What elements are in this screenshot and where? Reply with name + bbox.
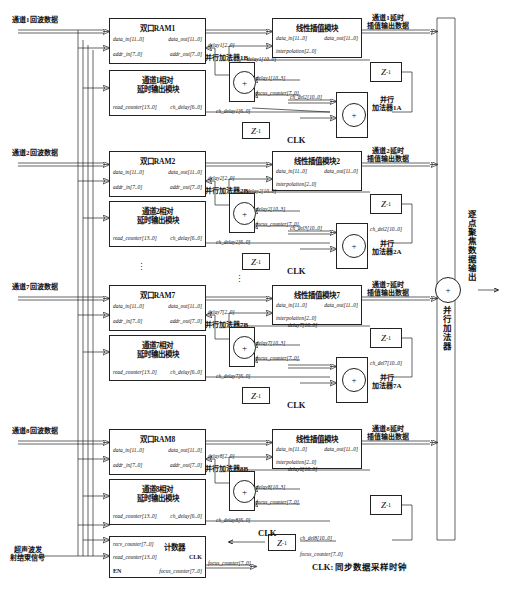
focus-counter-signal-8: focus_counter[7..0] [256, 499, 299, 505]
adder-2b-plus: + [233, 202, 256, 225]
delay-module-2-ch-delay-port: ch_delay[6..0] [170, 235, 202, 241]
linear-interpolation-module-1: 线性插值模块 data_in[11..0] data_out[11..0] in… [272, 18, 362, 58]
ram-7-title: 双口RAM7 [110, 289, 205, 300]
interp-8-data-out-port: data_out[11..0] [324, 446, 358, 452]
parallel-adder-7a-title: 并行 加法器7A [372, 374, 402, 391]
counter-en-port: EN [113, 568, 121, 574]
z-delay-block-1-bottom: Z-1 [242, 122, 270, 139]
channel-1-output-label: 通道1延时 插值输出数据 [367, 14, 409, 31]
channel-7-output-label: 通道7延时 插值输出数据 [367, 281, 409, 298]
z-2-bot-exp: -1 [256, 259, 261, 265]
ram-1-title: 双口RAM1 [110, 22, 205, 33]
delay2-low-signal: delay2[2..0] [208, 175, 235, 181]
final-parallel-adder-plus: + [435, 277, 461, 303]
ram-8-data-out-port: data_out[11..0] [168, 447, 202, 453]
ch-delay7-signal: ch_delay7[6..0] [216, 373, 250, 379]
parallel-adder-1a: + [336, 92, 368, 138]
z-7-bot-exp: -1 [256, 393, 261, 399]
interp-2-title: 线性插值模块2 [273, 155, 361, 166]
ram-8-addr-in-port: addr_in[7..0] [113, 462, 142, 468]
linear-interpolation-module-2: 线性插值模块2 data_in[11..0] data_out[11..0] i… [272, 151, 362, 191]
counter-read-counter-port: read_counter[13..0] [113, 554, 157, 560]
ram-2-addr-out-port: addr_out[7..0] [170, 184, 202, 190]
adder-8b-plus: + [233, 480, 256, 503]
input-label-channel-8: 通道8回波数据 [12, 427, 58, 435]
ram-7-data-in-port: data_in[11..0] [113, 303, 144, 309]
linear-interpolation-module-8: 线性插值模块 data_in[11..0] data_out[11..0] in… [272, 429, 362, 469]
ram-2-data-in-port: data_in[11..0] [113, 169, 144, 175]
z-delay-block-2-top: Z-1 [370, 194, 402, 214]
focus-counter-bus-label: focus_counter[7..0] [208, 560, 251, 566]
delay8-full-signal: delay8[10..0] [288, 466, 317, 472]
delay8-low-signal: delay8[2..0] [208, 453, 235, 459]
clk-legend: CLK: 同步数据采样时钟 [312, 560, 407, 572]
input-label-channel-7: 通道7回波数据 [12, 283, 58, 291]
counter-title: 计数器 [150, 541, 199, 552]
interp-7-interpolation-port: interpolation[2..0] [276, 315, 316, 321]
ram-8-addr-out-port: addr_out[7..0] [170, 462, 202, 468]
relative-delay-output-module-7: 通道7相对 延时输出模块 read_counter[13..0] ch_dela… [109, 335, 206, 381]
parallel-adder-7b: + [229, 327, 255, 367]
parallel-adder-2a: + [336, 223, 368, 269]
delay-module-1-read-counter-port: read_counter[13..0] [113, 104, 157, 110]
input-label-channel-1: 通道1回波数据 [12, 16, 58, 24]
ram-7-data-out-port: data_out[11..0] [168, 303, 202, 309]
delay7-full-signal: delay7[10..0] [288, 322, 317, 328]
ram-7-addr-in-port: addr_in[7..0] [113, 318, 142, 324]
interp-8-interpolation-port: interpolation[2..0] [276, 459, 316, 465]
clk-label-8: CLK [258, 528, 276, 538]
parallel-adder-1b-title: 并行加法器1B [205, 54, 248, 62]
delay2-high-signal: delay2[10..3] [256, 206, 285, 212]
interp-1-title: 线性插值模块 [273, 22, 361, 33]
clk-label-2: CLK [287, 266, 305, 276]
counter-recv-counter-port: recv_counter[7..0] [113, 541, 154, 547]
interp-7-title: 线性插值模块7 [273, 289, 361, 300]
z-delay-block-7-top: Z-1 [370, 328, 402, 348]
ellipsis-left: ⋮ [140, 262, 143, 272]
delay-module-1-title: 通道1相对 延时输出模块 [110, 77, 205, 94]
ch-del3-input-signal: ch_del3[10..0] [290, 225, 322, 231]
relative-delay-output-module-8: 通道8相对 延时输出模块 read_counter[13..0] ch_dela… [109, 479, 206, 525]
z-1-top-exp: -1 [386, 69, 391, 75]
relative-delay-output-module-1: 通道1相对 延时输出模块 read_counter[13..0] ch_dela… [109, 70, 206, 116]
interp-1-data-out-port: data_out[11..0] [324, 35, 358, 41]
ch-del2-output-signal: ch_del2[10..0] [370, 226, 402, 232]
interp-2-interpolation-port: interpolation[2..0] [276, 181, 316, 187]
adder-1a-plus: + [342, 103, 366, 127]
clk-label-7: CLK [287, 400, 305, 410]
z-8-bot-exp: -1 [282, 540, 287, 546]
interp-1-data-in-port: data_in[11..0] [276, 35, 307, 41]
ram-7-addr-out-port: addr_out[7..0] [170, 318, 202, 324]
ch-del7-output-signal: ch_del7[10..0] [370, 360, 402, 366]
adder-7b-plus: + [233, 336, 256, 359]
ch-del8-output-signal: ch_del8[10..0] [300, 535, 332, 541]
clk-label-1: CLK [287, 135, 305, 145]
relative-delay-output-module-2: 通道2相对 延时输出模块 read_counter[13..0] ch_dela… [109, 201, 206, 247]
ch-delay1-signal: ch_delay1[6..0] [216, 108, 250, 114]
input-label-channel-2: 通道2回波数据 [12, 149, 58, 157]
dual-port-ram-1: 双口RAM1 data_in[11..0] data_out[11..0] ad… [109, 18, 206, 64]
adder-2a-plus: + [342, 234, 366, 258]
linear-interpolation-module-7: 线性插值模块7 data_in[11..0] data_out[11..0] i… [272, 285, 362, 325]
z-2-top-exp: -1 [386, 201, 391, 207]
interp-1-interpolation-port: interpolation[2..0] [276, 48, 316, 54]
ram-2-addr-in-port: addr_in[7..0] [113, 184, 142, 190]
delay7-low-signal: delay7[2..0] [208, 309, 235, 315]
z-1-bot-exp: -1 [256, 128, 261, 134]
ch-del2-input-signal: ch_del2[10..0] [290, 94, 322, 100]
z-delay-block-7-bottom: Z-1 [242, 387, 270, 404]
interp-2-data-out-port: data_out[11..0] [324, 168, 358, 174]
delay8-high-signal: delay8[10..3] [256, 484, 285, 490]
delay-module-1-ch-delay-port: ch_delay[6..0] [170, 104, 202, 110]
delay7-high-signal: delay7[10..3] [256, 340, 285, 346]
dual-port-ram-8: 双口RAM8 data_in[11..0] data_out[11..0] ad… [109, 429, 206, 475]
ch-delay8-signal: ch_delay8[6..0] [216, 517, 250, 523]
delay1-full-signal: delay1[10..0] [247, 56, 276, 62]
delay-module-8-ch-delay-port: ch_delay[6..0] [170, 513, 202, 519]
delay-module-2-title: 通道2相对 延时输出模块 [110, 208, 205, 225]
ram-1-data-out-port: data_out[11..0] [168, 36, 202, 42]
ram-2-title: 双口RAM2 [110, 155, 205, 166]
final-parallel-adder-label: 并行加法器 [440, 306, 451, 351]
channel-2-output-label: 通道2延时 插值输出数据 [367, 147, 409, 164]
ellipsis-middle: ⋮ [238, 274, 241, 284]
